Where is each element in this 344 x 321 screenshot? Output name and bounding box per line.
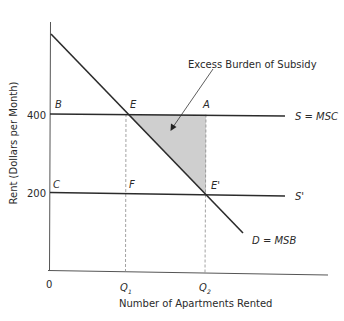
- subsidized-supply-line: [50, 193, 285, 197]
- point-c-label: C: [53, 179, 60, 190]
- y-tick-400: 400: [27, 110, 46, 121]
- demand-msb-label: D = MSB: [252, 235, 296, 246]
- supply-msc-line: [50, 114, 285, 116]
- y-axis-title: Rent (Dollars per Month): [8, 81, 19, 204]
- annotation-label: Excess Burden of Subsidy: [188, 59, 317, 70]
- subsidized-supply-label: S': [295, 191, 304, 202]
- q1-label: Q1: [120, 282, 132, 295]
- y-tick-200: 200: [27, 188, 46, 199]
- excess-burden-diagram: Excess Burden of Subsidy Rent (Dollars p…: [0, 0, 344, 321]
- x-axis: [48, 271, 328, 276]
- point-e-label: E: [130, 99, 137, 110]
- y-axis: [50, 22, 51, 271]
- origin-label: 0: [46, 279, 52, 290]
- q1-dashed-line: [126, 114, 127, 272]
- x-axis-title: Number of Apartments Rented: [119, 298, 272, 309]
- point-e-prime-label: E': [211, 180, 220, 191]
- point-b-label: B: [55, 99, 62, 110]
- point-f-label: F: [129, 179, 135, 190]
- supply-msc-label: S = MSC: [295, 111, 338, 122]
- point-a-label: A: [202, 99, 210, 110]
- q2-label: Q2: [199, 282, 211, 295]
